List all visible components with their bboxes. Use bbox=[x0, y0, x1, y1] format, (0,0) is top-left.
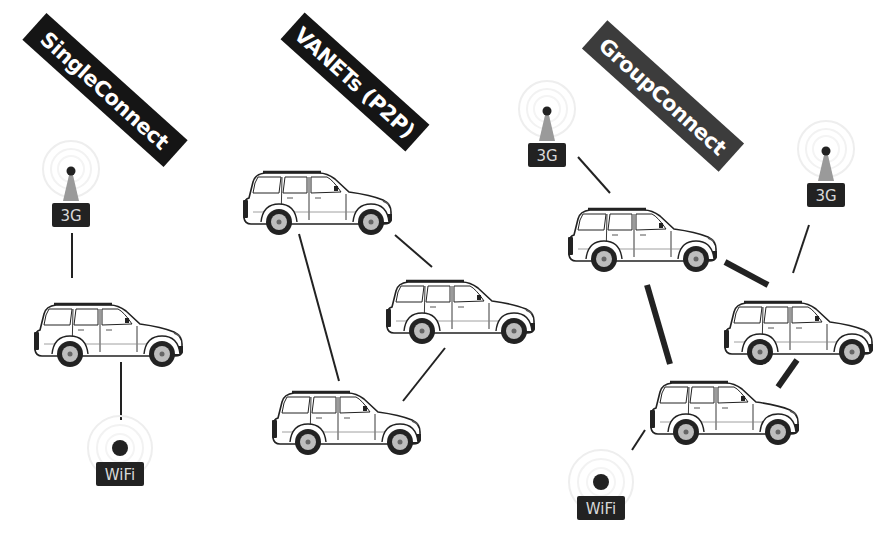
banner-label: SingleConnect bbox=[35, 27, 173, 155]
badge-3g-label: 3G bbox=[536, 147, 557, 165]
vehicle-icon bbox=[272, 392, 421, 455]
vehicle-icon bbox=[568, 209, 717, 272]
group-link bbox=[778, 360, 797, 387]
p2p-link bbox=[395, 235, 432, 267]
cell-tower-3g: 3G bbox=[43, 141, 99, 227]
link-3g-to-car bbox=[793, 225, 809, 273]
group-link bbox=[647, 285, 670, 364]
group-link bbox=[725, 262, 768, 285]
vehicle-icon bbox=[34, 304, 183, 367]
p2p-link bbox=[403, 348, 445, 401]
wifi-hotspot: WiFi bbox=[88, 416, 152, 486]
cell-tower-3g: 3G bbox=[798, 121, 854, 207]
badge-wifi-label: WiFi bbox=[586, 500, 616, 518]
vehicle-icon bbox=[386, 281, 535, 344]
cell-tower-3g: 3G bbox=[519, 81, 575, 167]
badge-3g-label: 3G bbox=[815, 187, 836, 205]
badge-wifi-label: WiFi bbox=[105, 466, 135, 484]
banner-single-connect: SingleConnect bbox=[22, 13, 187, 167]
link-car-to-wifi bbox=[632, 430, 645, 450]
banner-label: GroupConnect bbox=[594, 33, 731, 160]
banner-label: VANETs (P2P) bbox=[289, 23, 419, 143]
diagram-canvas: SingleConnect 3G WiFi VANETs (P2P) bbox=[0, 0, 896, 537]
p2p-link bbox=[299, 234, 339, 381]
wifi-hotspot: WiFi bbox=[569, 450, 633, 520]
vehicle-icon bbox=[724, 302, 873, 365]
link-3g-to-car bbox=[578, 157, 610, 193]
vehicle-icon bbox=[650, 382, 799, 445]
vehicle-icon bbox=[243, 172, 392, 235]
banner-vanets: VANETs (P2P) bbox=[281, 12, 430, 151]
panel-single-connect: SingleConnect 3G WiFi bbox=[22, 13, 187, 486]
badge-3g-label: 3G bbox=[60, 207, 81, 225]
panel-group-connect: GroupConnect 3G 3G WiFi bbox=[519, 20, 873, 520]
panel-vanets: VANETs (P2P) bbox=[243, 12, 535, 455]
banner-group-connect: GroupConnect bbox=[582, 20, 744, 171]
